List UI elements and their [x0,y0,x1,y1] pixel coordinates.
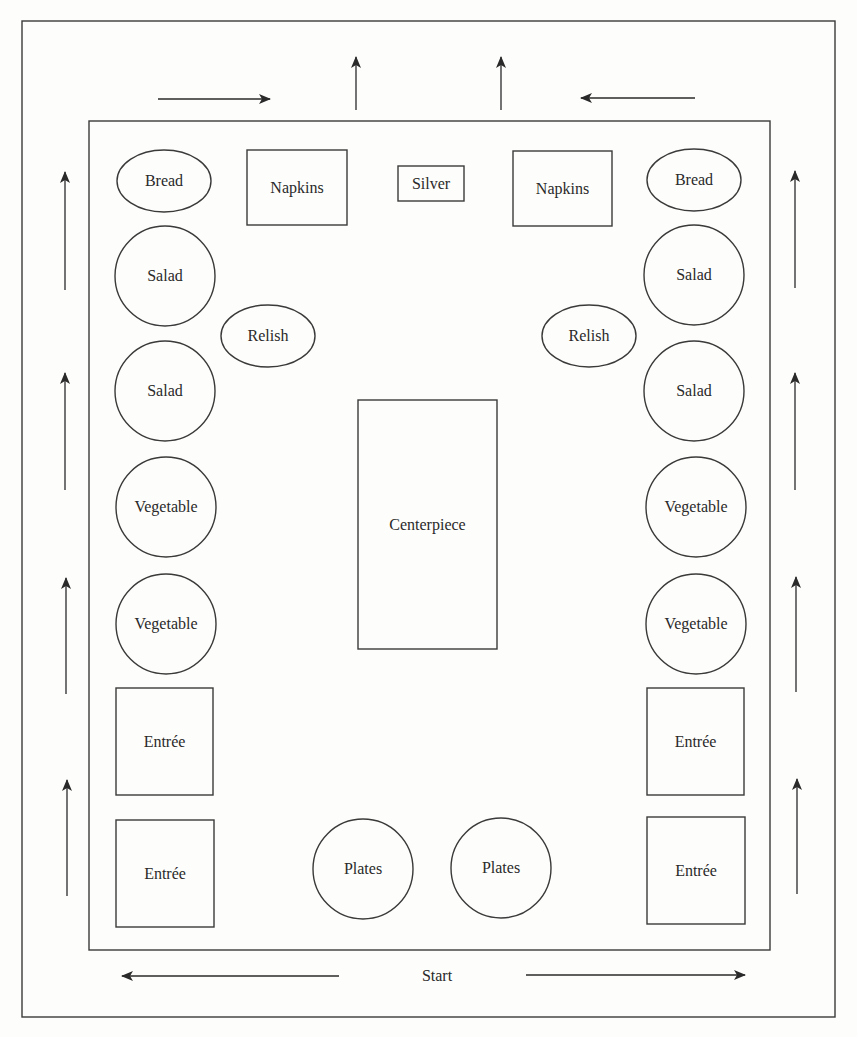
dish-silver: Silver [398,166,464,201]
dish-label: Relish [248,327,289,344]
dish-label: Napkins [536,180,589,198]
dish-label: Relish [569,327,610,344]
dish-label: Napkins [270,179,323,197]
dish-label: Vegetable [664,498,727,516]
dish-vegetable-left-2: Vegetable [116,574,216,674]
dish-entree-right-2: Entrée [647,817,745,924]
dish-bread-right: Bread [647,149,741,211]
dish-plates-right: Plates [451,818,551,918]
dish-vegetable-left-1: Vegetable [116,457,216,557]
dish-entree-left-1: Entrée [116,688,213,795]
dish-label: Salad [676,382,712,399]
dish-label: Salad [676,266,712,283]
dish-entree-left-2: Entrée [116,820,214,927]
dish-label: Bread [145,172,183,189]
dish-label: Entrée [675,862,717,879]
dish-label: Centerpiece [389,516,465,534]
dish-label: Vegetable [134,498,197,516]
dish-label: Vegetable [664,615,727,633]
dish-label: Salad [147,382,183,399]
dish-label: Salad [147,267,183,284]
dish-label: Entrée [144,733,186,750]
dish-centerpiece: Centerpiece [358,400,497,649]
dish-label: Plates [482,859,520,876]
dish-vegetable-right-2: Vegetable [646,574,746,674]
dish-salad-right-1: Salad [644,225,744,325]
dish-relish-right: Relish [542,305,636,367]
dish-salad-left-1: Salad [115,226,215,326]
dish-relish-left: Relish [221,305,315,367]
dish-salad-right-2: Salad [644,341,744,441]
dish-napkins-right: Napkins [513,151,612,226]
dish-bread-left: Bread [117,150,211,212]
dish-label: Entrée [675,733,717,750]
table-items: BreadNapkinsSilverNapkinsBreadSaladSalad… [115,149,746,927]
dish-salad-left-2: Salad [115,341,215,441]
dish-label: Plates [344,860,382,877]
start-label: Start [422,967,453,984]
dish-label: Vegetable [134,615,197,633]
buffet-table [89,121,770,950]
dish-napkins-left: Napkins [247,150,347,225]
dish-plates-left: Plates [313,819,413,919]
dish-label: Silver [412,175,451,192]
buffet-layout-diagram: BreadNapkinsSilverNapkinsBreadSaladSalad… [0,0,857,1037]
dish-label: Entrée [144,865,186,882]
dish-entree-right-1: Entrée [647,688,744,795]
dish-label: Bread [675,171,713,188]
dish-vegetable-right-1: Vegetable [646,457,746,557]
